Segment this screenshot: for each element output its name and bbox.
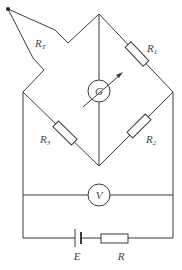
voltmeter: V [23, 184, 173, 206]
resistor-r-body [101, 234, 128, 243]
galvanometer-label: G [95, 85, 103, 97]
resistor-r1-body [125, 42, 149, 66]
circuit-diagram: RT R1 R2 R3 G V [0, 0, 182, 270]
battery-label: E [73, 250, 81, 262]
thermistor-label: RT [34, 37, 47, 51]
r3-label: R3 [39, 133, 51, 147]
r2-label: R2 [145, 133, 157, 147]
galvanometer: G [83, 14, 123, 166]
thermistor-upper-arm [8, 9, 99, 43]
battery-branch: E R [23, 229, 173, 262]
resistor-r1: R1 [99, 14, 173, 92]
resistor-r2: R2 [99, 92, 173, 166]
thermistor-terminal-dot [6, 7, 10, 11]
resistor-r-label: R [117, 250, 125, 262]
r1-label: R1 [146, 42, 157, 56]
thermistor-lower-arm [8, 9, 44, 92]
resistor-r3-body [53, 121, 77, 145]
thermistor-rt: RT [6, 7, 99, 92]
